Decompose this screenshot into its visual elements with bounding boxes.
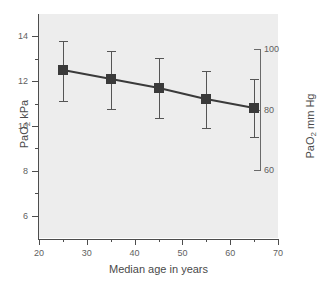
series-line-segment — [158, 87, 206, 100]
x-tick-minor — [63, 239, 64, 242]
y-tick-label-left: 14 — [6, 32, 28, 41]
plot-area — [39, 14, 278, 238]
data-point-marker[interactable] — [58, 65, 68, 75]
error-bar-cap — [155, 118, 164, 119]
chart-figure: 68101214 6080100 203040506070 PaO2 kPa P… — [0, 0, 322, 286]
error-bar-cap — [59, 101, 68, 102]
y-tick-left — [32, 126, 38, 127]
data-point-marker[interactable] — [106, 74, 116, 84]
y-axis-left-title-text: PaO2 kPa — [18, 100, 30, 148]
x-tick-label: 20 — [26, 249, 52, 258]
x-tick — [87, 239, 88, 245]
y-axis-right-title: PaO2 mm Hg — [304, 66, 316, 186]
error-bar-cap — [155, 58, 164, 59]
y-tick-left-minor — [35, 193, 38, 194]
error-bar-cap — [59, 41, 68, 42]
x-tick-minor — [206, 239, 207, 242]
series-line-segment — [206, 98, 254, 109]
x-tick-minor — [254, 239, 255, 242]
x-tick-label: 40 — [122, 249, 148, 258]
error-bar-cap — [250, 79, 259, 80]
error-bar-cap — [107, 109, 116, 110]
y-tick-left — [32, 216, 38, 217]
x-tick — [230, 239, 231, 245]
error-bar-cap — [107, 51, 116, 52]
error-bar-cap — [202, 128, 211, 129]
x-tick-label: 70 — [265, 249, 291, 258]
x-axis-title: Median age in years — [39, 263, 278, 275]
y-tick-left — [32, 81, 38, 82]
y-tick-label-left: 6 — [6, 212, 28, 221]
x-tick — [182, 239, 183, 245]
error-bar-cap — [202, 71, 211, 72]
series-line-segment — [111, 78, 159, 89]
y-tick-left-minor — [35, 59, 38, 60]
x-tick-label: 30 — [74, 249, 100, 258]
y-axis-left-title: PaO2 kPa — [18, 64, 30, 184]
error-bar-cap — [250, 137, 259, 138]
y-tick-left-minor — [35, 104, 38, 105]
x-tick-minor — [111, 239, 112, 242]
x-tick — [39, 239, 40, 245]
y-tick-left — [32, 36, 38, 37]
y-tick-left — [32, 171, 38, 172]
x-tick-label: 50 — [169, 249, 195, 258]
x-tick-label: 60 — [217, 249, 243, 258]
data-point-marker[interactable] — [201, 94, 211, 104]
y-tick-left-minor — [35, 148, 38, 149]
x-tick — [135, 239, 136, 245]
x-tick — [278, 239, 279, 245]
x-tick-minor — [159, 239, 160, 242]
data-point-marker[interactable] — [249, 103, 259, 113]
y-axis-right-title-text: PaO2 mm Hg — [304, 94, 316, 159]
data-point-marker[interactable] — [154, 83, 164, 93]
series-line-segment — [63, 69, 111, 80]
